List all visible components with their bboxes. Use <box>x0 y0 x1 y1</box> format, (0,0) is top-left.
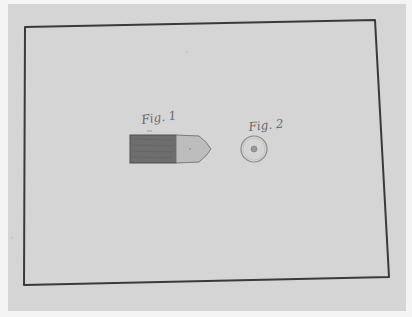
projectile-nose-dot <box>189 148 191 150</box>
drawing-canvas: Fig. 1 Fig. 2 <box>0 0 412 317</box>
fig2-center-dot <box>251 146 257 152</box>
fig1-label: Fig. 1 <box>139 108 177 127</box>
fig2-label: Fig. 2 <box>247 116 284 134</box>
projectile-nose <box>176 135 211 163</box>
